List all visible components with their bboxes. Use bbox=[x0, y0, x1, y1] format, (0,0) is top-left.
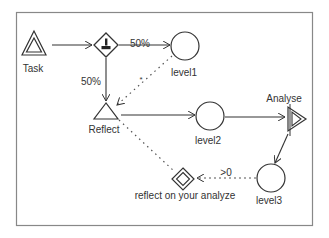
diagram-canvas: Task level1 Reflect level2 Analyse level… bbox=[0, 0, 329, 238]
edge-label-gateway-reflect: 50% bbox=[81, 76, 101, 87]
level3-label: level3 bbox=[256, 195, 282, 206]
analyse-node[interactable] bbox=[288, 104, 306, 136]
reflect-node[interactable] bbox=[94, 103, 118, 119]
reflect-gateway-node[interactable] bbox=[172, 168, 194, 190]
edge-level1-reflect bbox=[117, 56, 172, 105]
edge-label-level1-reflect: * bbox=[139, 74, 142, 85]
reflect-gateway-label: reflect on your analyze bbox=[135, 190, 236, 201]
edge-analyse-level3 bbox=[275, 134, 288, 163]
level3-node[interactable] bbox=[257, 164, 285, 192]
level2-node[interactable] bbox=[196, 102, 224, 130]
edge-label-level3-gateway: >0 bbox=[220, 167, 231, 178]
gateway-node[interactable] bbox=[94, 33, 118, 57]
task-label: Task bbox=[23, 63, 44, 74]
task-node[interactable] bbox=[22, 31, 46, 55]
level1-node[interactable] bbox=[171, 32, 199, 60]
level2-label: level2 bbox=[195, 135, 221, 146]
level1-label: level1 bbox=[171, 67, 197, 78]
person-icon bbox=[102, 39, 111, 50]
edge-label-gateway-level1: 50% bbox=[130, 38, 150, 49]
analyse-label: Analyse bbox=[266, 93, 302, 104]
edge-reflect-gateway-reflect bbox=[119, 120, 175, 172]
reflect-label: Reflect bbox=[88, 124, 119, 135]
